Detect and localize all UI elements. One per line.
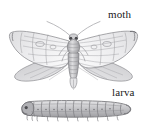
moth-eye-left bbox=[69, 37, 72, 40]
larva-eye bbox=[25, 106, 28, 109]
larva-illustration bbox=[14, 98, 136, 126]
moth-larva-figure: moth larva bbox=[0, 0, 147, 131]
larva-label: larva bbox=[112, 87, 134, 98]
moth-thorax bbox=[67, 40, 79, 55]
moth-illustration bbox=[4, 18, 143, 90]
moth-forewing-left bbox=[9, 31, 70, 68]
moth-abdomen bbox=[68, 53, 79, 79]
moth-eye-right bbox=[75, 37, 78, 40]
moth-label: moth bbox=[108, 9, 131, 20]
moth-forewing-right bbox=[77, 31, 138, 68]
larva-head bbox=[22, 102, 34, 116]
